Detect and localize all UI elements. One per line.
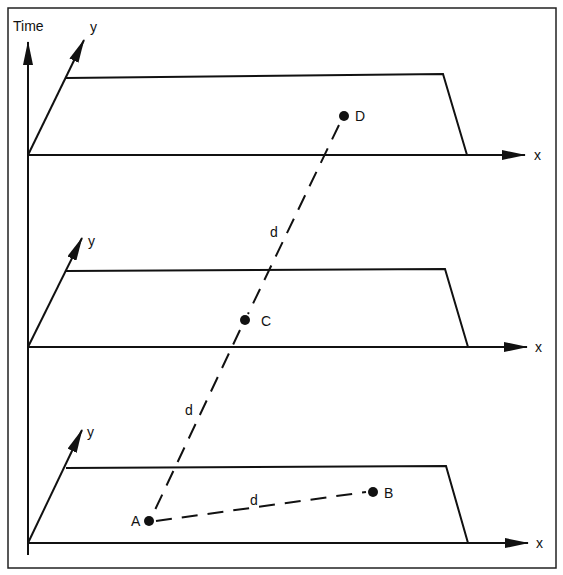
x-axis-label-bottom: x <box>536 535 543 551</box>
distance-label-a-b: d <box>250 492 258 508</box>
time-axis-label: Time <box>13 18 44 34</box>
connection-a-c: d <box>154 330 240 512</box>
point-c: C <box>240 313 271 329</box>
time-axis: Time <box>13 18 44 555</box>
y-axis-label-middle: y <box>88 233 95 249</box>
point-b: B <box>368 485 393 501</box>
plane-bottom: y x <box>28 424 543 551</box>
connection-a-b: d <box>156 492 366 521</box>
plane-top: y x <box>28 19 541 163</box>
x-axis-label-top: x <box>534 147 541 163</box>
figure-border <box>8 8 556 568</box>
plane-middle: y x <box>28 233 542 355</box>
distance-label-a-c: d <box>185 402 193 418</box>
point-a: A <box>131 513 154 529</box>
point-d: D <box>339 108 365 124</box>
point-label-b: B <box>384 485 393 501</box>
x-axis-label-middle: x <box>535 339 542 355</box>
point-label-c: C <box>261 313 271 329</box>
distance-label-c-d: d <box>270 224 278 240</box>
diagram-figure: Time y x y x y x d d d D <box>0 0 563 575</box>
point-label-d: D <box>355 108 365 124</box>
y-axis-label-bottom: y <box>87 424 94 440</box>
connection-c-d: d <box>248 125 339 314</box>
y-axis-label-top: y <box>90 19 97 35</box>
point-label-a: A <box>131 513 141 529</box>
